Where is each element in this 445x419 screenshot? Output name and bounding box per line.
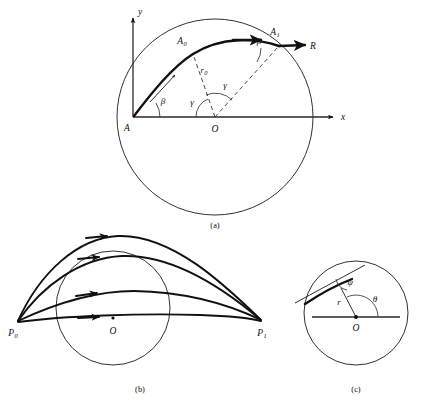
label-point-P0: P0 [7, 328, 18, 339]
panel-c-circle [304, 261, 408, 365]
beta-launch-arc [156, 103, 160, 117]
label-angle-gamma-right: γ [223, 80, 227, 90]
beta-impact-arc [257, 48, 261, 62]
label-angle-theta: θ [373, 294, 378, 304]
trajectory-b-4-arrow [78, 317, 99, 318]
label-point-A1-sub: 1 [277, 31, 280, 38]
figure-canvas: A A0 A1 O x y R r0 β β γ γ (a) [0, 0, 445, 419]
label-axis-y: y [137, 7, 143, 17]
panel-b-circle [56, 251, 170, 365]
label-radius-r0: r0 [201, 65, 209, 76]
panel-label-b: (b) [135, 385, 145, 394]
panel-b: P0 O P1 (b) [7, 236, 266, 394]
label-axis-x: x [340, 112, 346, 122]
gamma-right-arc [206, 93, 232, 100]
label-point-O-b: O [110, 326, 117, 336]
label-point-P0-sub: 0 [15, 332, 19, 339]
point-marker-o-c [354, 315, 358, 319]
label-point-O-c: O [353, 323, 360, 333]
point-marker-a0 [192, 53, 194, 55]
panel-c: O r ψ θ (c) [295, 261, 408, 394]
label-point-O-a: O [212, 124, 219, 134]
panel-a: A A0 A1 O x y R r0 β β γ γ (a) [117, 7, 346, 230]
trajectory-curve-a [134, 40, 279, 116]
label-point-A0: A0 [176, 36, 187, 47]
trajectory-curve-c [305, 279, 352, 304]
panel-label-c: (c) [351, 385, 361, 394]
label-point-P1-sub: 1 [264, 332, 267, 339]
label-angle-psi: ψ [347, 277, 353, 287]
label-point-P0-base: P [7, 328, 14, 338]
point-marker-o-b [111, 316, 114, 319]
label-radius-r-c: r [337, 297, 341, 307]
trajectory-b-2-arrow [78, 257, 99, 259]
label-point-A0-base: A [176, 36, 183, 46]
label-radius-r0-sub: 0 [204, 69, 208, 76]
label-point-A0-sub: 0 [184, 40, 188, 47]
radius-vector-r [341, 288, 356, 317]
radius-r0-line [193, 54, 215, 117]
trajectory-b-1 [18, 236, 260, 321]
label-point-P1-base: P [256, 328, 263, 338]
trajectory-b-4 [18, 314, 261, 322]
label-angle-beta-impact: β [256, 36, 262, 46]
tangent-line-c [295, 265, 365, 303]
label-point-A1-base: A [269, 27, 276, 37]
panel-label-a: (a) [210, 221, 220, 230]
label-angle-beta-launch: β [160, 96, 166, 106]
label-point-A1: A1 [269, 27, 279, 38]
label-point-P1: P1 [256, 328, 266, 339]
vector-R [279, 45, 305, 46]
label-point-A: A [123, 123, 130, 133]
trajectory-b-2 [18, 256, 261, 321]
gamma-left-arc [196, 99, 208, 117]
label-vector-R: R [309, 41, 316, 51]
label-angle-gamma-left: γ [190, 97, 194, 107]
figure-root: A A0 A1 O x y R r0 β β γ γ (a) [0, 0, 445, 419]
